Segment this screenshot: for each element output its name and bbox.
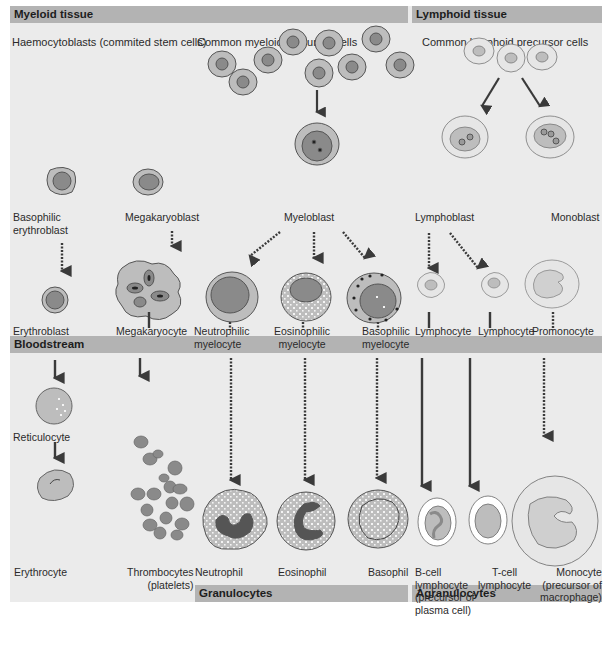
label-line: Monocyte xyxy=(540,566,602,579)
monocyte-label: Monocyte (precursor of macrophage) xyxy=(540,566,602,604)
label-line: (precursor of xyxy=(540,579,602,592)
basophilic-myelocyte-label: Basophilic myelocyte xyxy=(362,325,410,350)
eosinophil-cell xyxy=(277,492,335,550)
basophilic-erythroblast-label: Basophilic erythroblast xyxy=(13,211,68,236)
label-line: (platelets) xyxy=(127,579,194,592)
lymphoid-precursor-cells xyxy=(464,38,557,72)
thrombocytes-label: Thrombocytes (platelets) xyxy=(127,566,194,591)
megakaryoblast-label: Megakaryoblast xyxy=(125,211,199,224)
myeloid-precursor-cells xyxy=(208,26,414,95)
label-line: (precursor of xyxy=(415,591,475,604)
label-line: myelocyte xyxy=(274,338,330,351)
neutrophil-cell xyxy=(203,489,267,549)
label-line: B-cell xyxy=(415,566,475,579)
lymphocyte-label-2: Lymphocyte xyxy=(478,325,534,338)
reticulocyte-cell xyxy=(36,388,72,424)
monoblast-cell xyxy=(526,116,574,158)
erythrocyte-label: Erythrocyte xyxy=(14,566,67,579)
label-line: Basophilic xyxy=(362,325,410,338)
myeloblast-cell xyxy=(295,123,339,165)
monoblast-label: Monoblast xyxy=(551,211,599,224)
b-cell-lymphocyte-label: B-cell lymphocyte (precursor of plasma c… xyxy=(415,566,475,616)
label-line: Thrombocytes xyxy=(127,566,194,579)
thrombocytes-cells xyxy=(131,436,194,540)
label-line: myelocyte xyxy=(194,338,249,351)
label-line: myelocyte xyxy=(362,338,410,351)
label-line: Neutrophilic xyxy=(194,325,249,338)
neutrophil-label: Neutrophil xyxy=(195,566,243,579)
cell-illustrations xyxy=(10,6,602,602)
myeloblast-label: Myeloblast xyxy=(284,211,334,224)
promonocyte-label: Promonocyte xyxy=(532,325,594,338)
haematopoiesis-diagram: Myeloid tissue Lymphoid tissue Bloodstre… xyxy=(10,6,602,602)
neutrophilic-myelocyte-label: Neutrophilic myelocyte xyxy=(194,325,249,350)
label-line: plasma cell) xyxy=(415,604,475,617)
megakaryocyte-cell xyxy=(116,261,181,320)
lymphoblast-label: Lymphoblast xyxy=(415,211,474,224)
label-line: T-cell xyxy=(478,566,531,579)
label-line: lymphocyte xyxy=(415,579,475,592)
basophil-label: Basophil xyxy=(368,566,408,579)
reticulocyte-label: Reticulocyte xyxy=(13,431,70,444)
lymphocyte-label-1: Lymphocyte xyxy=(415,325,471,338)
label-line: erythroblast xyxy=(13,224,68,237)
label-line: lymphocyte xyxy=(478,579,531,592)
megakaryocyte-label: Megakaryocyte xyxy=(116,325,187,338)
eosinophilic-myelocyte-label: Eosinophilic myelocyte xyxy=(274,325,330,350)
erythroblast-label: Erythroblast xyxy=(13,325,69,338)
label-line: Eosinophilic xyxy=(274,325,330,338)
label-line: Basophilic xyxy=(13,211,68,224)
lymphoblast-cell xyxy=(442,116,488,158)
t-cell-lymphocyte-label: T-cell lymphocyte xyxy=(478,566,531,591)
erythrocyte-cell xyxy=(37,470,73,501)
label-line: macrophage) xyxy=(540,591,602,604)
eosinophil-label: Eosinophil xyxy=(278,566,326,579)
